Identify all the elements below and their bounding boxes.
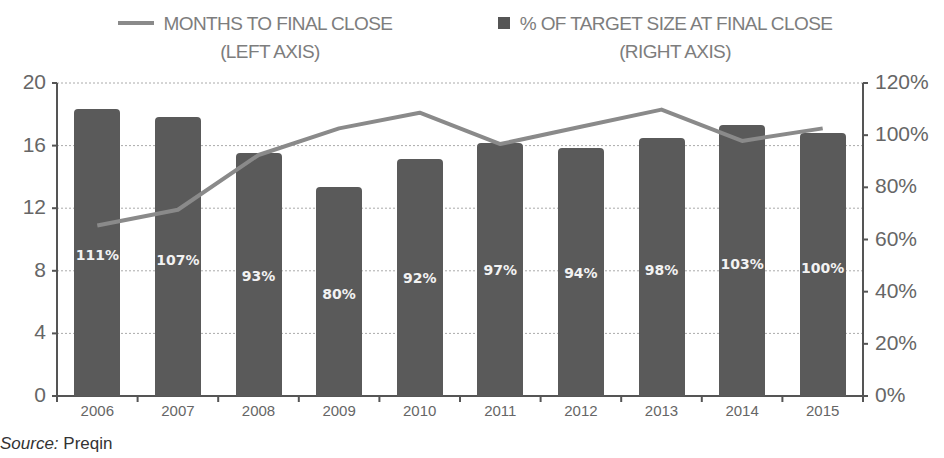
months-to-final-close-line bbox=[97, 110, 822, 226]
line-series-layer bbox=[0, 0, 944, 458]
source-value: Preqin bbox=[63, 434, 112, 453]
x-axis-tick-label: 2011 bbox=[470, 402, 530, 419]
source-label: Source: bbox=[0, 434, 59, 453]
source-note: Source: Preqin bbox=[0, 434, 112, 454]
x-axis-tick-label: 2010 bbox=[390, 402, 450, 419]
x-axis-tick-label: 2015 bbox=[793, 402, 853, 419]
x-axis-tick-label: 2013 bbox=[632, 402, 692, 419]
x-axis-tick-label: 2006 bbox=[67, 402, 127, 419]
x-axis-tick-label: 2014 bbox=[712, 402, 772, 419]
x-axis-tick-label: 2008 bbox=[229, 402, 289, 419]
x-axis-tick-label: 2007 bbox=[148, 402, 208, 419]
x-axis-tick-label: 2009 bbox=[309, 402, 369, 419]
x-axis-tick-label: 2012 bbox=[551, 402, 611, 419]
